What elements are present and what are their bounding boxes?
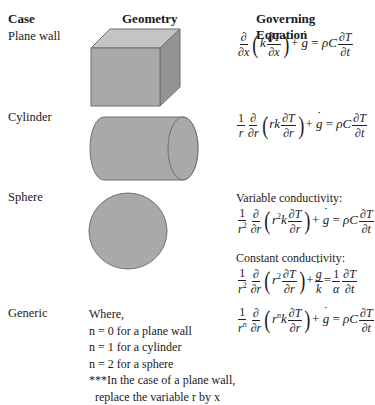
equation-generic: 1rn∂∂r(rnk∂T∂r)+ g = ρC∂T∂t — [236, 306, 375, 334]
generic-notes: Where, n = 0 for a plane wall n = 1 for … — [89, 306, 235, 405]
note-n1: n = 1 for a cylinder — [89, 339, 235, 356]
equation-sphere-constant: 1r2∂∂r(r2∂T∂r)+gk=1α∂T∂t — [236, 267, 358, 295]
equation-cylinder: 1r∂∂r(rk∂T∂r)+ g = ρC∂T∂t — [236, 112, 368, 139]
cylinder-icon — [90, 117, 198, 180]
sphere-icon — [89, 193, 167, 269]
equation-plane-wall: ∂∂x(k∂T∂x)+ g = ρC∂T∂t — [236, 31, 354, 58]
note-n0: n = 0 for a plane wall — [89, 323, 235, 340]
constant-conductivity-label: Constant conductivity: — [236, 250, 345, 267]
note-plane-wall: ***In the case of a plane wall, — [89, 372, 235, 389]
note-n2: n = 2 for a sphere — [89, 356, 235, 373]
note-replace: replace the variable r by x — [89, 389, 235, 405]
equation-sphere-variable: 1r2∂∂r(r2k∂T∂r)+ g = ρC∂T∂t — [236, 207, 375, 235]
note-where: Where, — [89, 306, 235, 323]
cube-icon — [91, 29, 180, 106]
